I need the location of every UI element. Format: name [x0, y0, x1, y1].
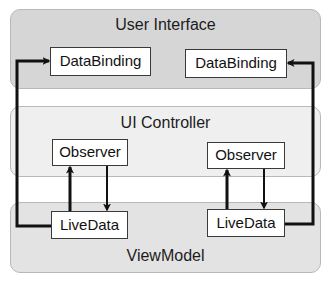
user-interface-title: User Interface — [11, 16, 320, 34]
livedata-right-node: LiveData — [207, 209, 285, 237]
databinding-right-node: DataBinding — [185, 49, 287, 78]
viewmodel-title: ViewModel — [11, 247, 320, 265]
observer-left-node: Observer — [52, 139, 128, 166]
databinding-left-node: DataBinding — [50, 47, 151, 76]
livedata-left-node: LiveData — [51, 211, 128, 239]
ui-controller-title: UI Controller — [11, 114, 320, 132]
observer-right-node: Observer — [207, 142, 285, 169]
